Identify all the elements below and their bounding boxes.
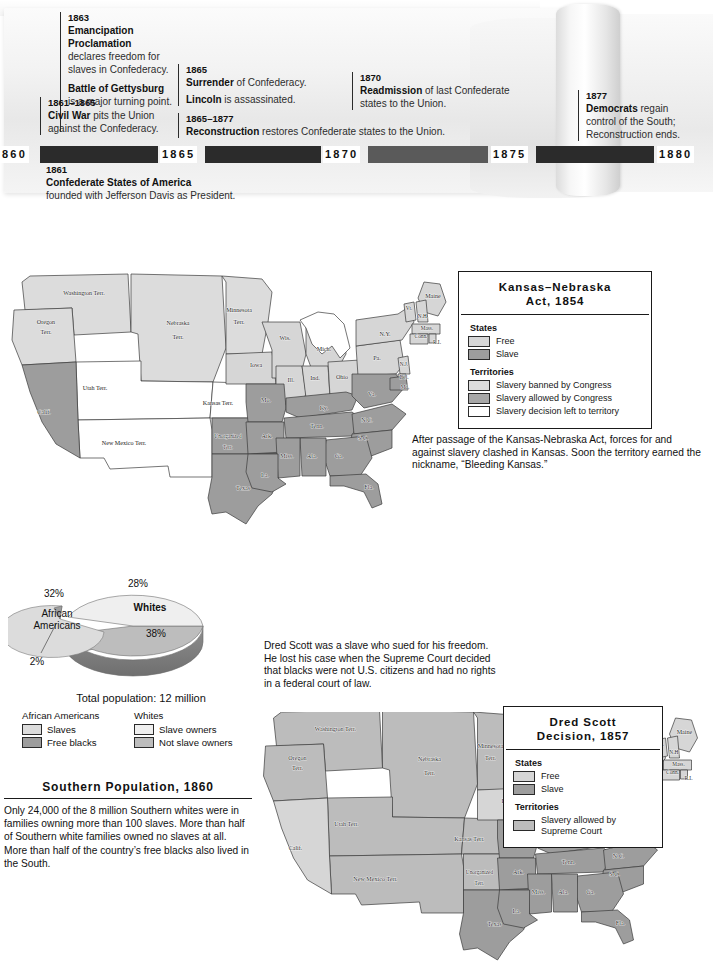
map-label-new-mexico-terr: New Mexico Terr. bbox=[102, 440, 147, 446]
timeline-event-1865-1877: 1865–1877 Reconstruction restores Confed… bbox=[178, 113, 478, 138]
legend-title-line2: Decision, 1857 bbox=[510, 729, 656, 743]
legend-label: Free bbox=[496, 336, 515, 347]
region-calif bbox=[274, 798, 332, 894]
map-label-terr: Terr. bbox=[485, 755, 497, 761]
region-new-mexico-terr bbox=[78, 418, 212, 477]
event-year: 1865–1877 bbox=[186, 113, 478, 125]
region-oregon-terr bbox=[12, 308, 76, 365]
region-nebraska-terr bbox=[131, 274, 226, 382]
map-dred-scott-1857: Washington Terr.OregonTerr.Calif.Utah Te… bbox=[250, 712, 713, 972]
pie-value-32: 32% bbox=[32, 588, 76, 599]
map-label-n-c: N.C. bbox=[613, 853, 625, 859]
legend-label: Slave bbox=[496, 349, 519, 360]
bar-segment bbox=[368, 146, 488, 163]
event-year: 1870 bbox=[360, 72, 532, 84]
region-nebraska-terr bbox=[383, 712, 478, 818]
event-line: Emancipation Proclamation bbox=[68, 24, 190, 50]
timeline-year-1865: 1865 bbox=[160, 146, 197, 163]
map-label-ill: Ill. bbox=[288, 377, 295, 383]
map-label-maine: Maine bbox=[677, 729, 693, 735]
map-label-s-c: S.C. bbox=[609, 871, 620, 877]
map-label-del: Del. bbox=[400, 374, 409, 380]
event-year: 1863 bbox=[68, 12, 190, 24]
event-line: Readmission of last Confederate bbox=[360, 84, 532, 97]
map-label-pa: Pa. bbox=[373, 355, 381, 361]
timeline-event-1870: 1870 Readmission of last Confederate sta… bbox=[352, 72, 532, 110]
region-iowa bbox=[226, 352, 276, 384]
legend-swatch bbox=[513, 771, 535, 782]
map-label-miss: Miss. bbox=[532, 889, 546, 895]
legend-item-slave-state: Slave bbox=[468, 349, 642, 360]
map-label-mo: Mo. bbox=[261, 397, 271, 403]
timeline-year-1870: 1870 bbox=[323, 146, 360, 163]
map-label-ala: Ala. bbox=[307, 453, 318, 459]
map-label-unorganized: Unorganized bbox=[466, 869, 494, 875]
event-line: Civil War pits the Union bbox=[48, 109, 175, 122]
event-year: 1877 bbox=[586, 90, 708, 102]
map-label-calif: Calif. bbox=[37, 409, 51, 415]
region-calif bbox=[22, 362, 80, 458]
map-label-md: Md. bbox=[401, 384, 410, 390]
map-label-la: La. bbox=[261, 472, 269, 478]
legend-section-territories: Territories bbox=[515, 802, 653, 812]
map-label-miss: Miss. bbox=[280, 453, 294, 459]
event-year: 1861 bbox=[46, 164, 306, 176]
map-label-fla: Fla. bbox=[616, 920, 626, 926]
map-kansas-nebraska-1854: Washington Terr.OregonTerr.Calif.Utah Te… bbox=[0, 262, 713, 550]
southern-population-panel: Southern Population, 1860 Only 24,000 of… bbox=[4, 780, 252, 870]
map1-legend-body: States Free Slave Territories Slavery ba… bbox=[461, 315, 649, 426]
event-line: Democrats regain bbox=[586, 102, 708, 115]
event-line: Reconstruction ends. bbox=[586, 128, 708, 141]
map-label-ga: Ga. bbox=[335, 453, 344, 459]
map-label-ark: Ark. bbox=[261, 433, 272, 439]
region-mo bbox=[246, 384, 286, 422]
map-label-calif: Calif. bbox=[289, 845, 303, 851]
map-label-n-c: N.C. bbox=[361, 417, 373, 423]
map-label-oregon: Oregon bbox=[37, 319, 55, 325]
region-ind bbox=[302, 366, 330, 398]
pie-value-28: 28% bbox=[116, 578, 160, 589]
timeline-banner: 860 1865 1870 1875 1880 1863 Emancipatio… bbox=[0, 0, 713, 230]
map-label-ind: Ind. bbox=[310, 375, 320, 381]
legend-swatch bbox=[513, 820, 535, 831]
map-label-n-h: N.H. bbox=[418, 313, 428, 319]
legend-item-free-state: Free bbox=[513, 771, 653, 782]
event-line: Reconstruction restores Confederate stat… bbox=[186, 125, 478, 138]
pie-value-2: 2% bbox=[20, 656, 54, 667]
legend-swatch bbox=[468, 336, 490, 347]
southern-population-body: Only 24,000 of the 8 million Southern wh… bbox=[4, 799, 252, 870]
legend-item-allowed: Slavery allowed by Congress bbox=[468, 393, 642, 404]
pie-value-38: 38% bbox=[134, 628, 178, 639]
map1-svg: Washington Terr.OregonTerr.Calif.Utah Te… bbox=[0, 262, 460, 550]
legend-label: Slavery banned by Congress bbox=[496, 380, 612, 391]
map-label-ohio: Ohio bbox=[336, 374, 348, 380]
event-line: Confederate States of America bbox=[46, 176, 306, 189]
legend-item-left-to-territory: Slavery decision left to territory bbox=[468, 406, 642, 417]
map-label-s-c: S.C. bbox=[358, 435, 369, 441]
pie-legend: Total population: 12 million African Ame… bbox=[22, 692, 252, 750]
map-label-ga: Ga. bbox=[586, 889, 595, 895]
region-ga bbox=[324, 436, 372, 476]
legend-item-free-state: Free bbox=[468, 336, 642, 347]
map2-legend-title: Dred Scott Decision, 1857 bbox=[506, 709, 660, 750]
map1-legend: Kansas–Nebraska Act, 1854 States Free Sl… bbox=[458, 271, 652, 429]
map-label-n-h: N.H. bbox=[669, 749, 679, 755]
legend-swatch bbox=[468, 406, 490, 417]
pie-legend-head: Whites bbox=[134, 710, 246, 721]
map-label-texas: Texas bbox=[236, 485, 251, 491]
pie-group-label-text: African Americans bbox=[33, 608, 80, 631]
map-label-terr: Terr. bbox=[424, 770, 436, 776]
map-label-minnesota: Minnesota bbox=[478, 743, 504, 749]
pie-legend-item-free-blacks: Free blacks bbox=[22, 737, 134, 748]
map-label-terr: Terr. bbox=[292, 765, 304, 771]
timeline-date-bar: 860 1865 1870 1875 1880 bbox=[0, 146, 713, 163]
legend-swatch bbox=[468, 380, 490, 391]
pie-legend-item-not-slave-owners: Not slave owners bbox=[134, 737, 246, 748]
legend-label: Slavery allowed by Supreme Court bbox=[541, 815, 633, 836]
region-nc bbox=[352, 404, 406, 434]
legend-swatch bbox=[22, 724, 42, 735]
map2-caption: Dred Scott was a slave who sued for his … bbox=[264, 640, 502, 690]
legend-label: Free bbox=[541, 771, 560, 782]
legend-swatch bbox=[134, 737, 154, 748]
event-line: against the Confederacy. bbox=[48, 122, 175, 135]
